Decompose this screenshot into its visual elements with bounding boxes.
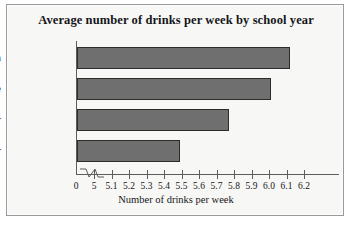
bar-senior: [77, 140, 180, 162]
x-tick-5-2-mark: [129, 170, 130, 179]
bar-freshman: [77, 47, 290, 69]
x-tick-6-1-mark: [287, 170, 288, 179]
chart-frame: Average number of drinks per week by sch…: [6, 4, 344, 216]
axis-break-icon: [80, 167, 104, 179]
bar-junior: [77, 109, 229, 131]
x-tick-5-3-mark: [147, 170, 148, 179]
category-label-junior: Junior: [0, 109, 1, 131]
category-label-sophomore: Sophomore: [0, 78, 1, 100]
x-tick-6-0-mark: [269, 170, 270, 179]
x-tick-5-mark: [94, 170, 95, 179]
category-label-freshman: Freshman: [0, 47, 1, 69]
x-tick-5-5-mark: [182, 170, 183, 179]
plot-area: FreshmanSophomoreJuniorSenior 055.15.25.…: [7, 5, 345, 217]
x-tick-6-2-mark: [304, 170, 305, 179]
x-tick-5-7-mark: [217, 170, 218, 179]
x-tick-5-4-mark: [164, 170, 165, 179]
x-axis-title: Number of drinks per week: [7, 194, 345, 205]
category-label-senior: Senior: [0, 140, 1, 162]
x-tick-5-1-mark: [112, 170, 113, 179]
bar-sophomore: [77, 78, 271, 100]
x-tick-5-9-mark: [252, 170, 253, 179]
x-tick-5-8-mark: [234, 170, 235, 179]
x-axis-line: [76, 174, 339, 175]
x-tick-6-2-label: 6.2: [289, 181, 319, 191]
x-tick-5-6-mark: [199, 170, 200, 179]
